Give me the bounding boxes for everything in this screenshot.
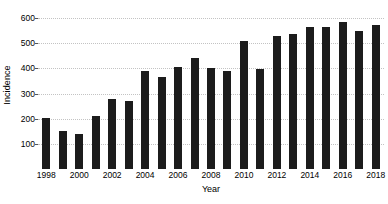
bar xyxy=(158,77,166,169)
y-axis-title: Incidence xyxy=(0,0,14,170)
bar xyxy=(289,34,297,169)
y-axis-tick-mark xyxy=(35,119,38,120)
bar xyxy=(59,131,67,169)
y-axis-tick-mark xyxy=(35,144,38,145)
x-axis-tick-labels: 1998200020022004200620082010201220142016… xyxy=(38,170,384,184)
bar xyxy=(256,69,264,169)
bar xyxy=(42,118,50,169)
bar xyxy=(223,71,231,169)
x-axis-tick-label: 2008 xyxy=(202,170,221,180)
incidence-by-year-bar-chart: Incidence 100200300400500600 19982000200… xyxy=(0,0,388,204)
bar xyxy=(240,41,248,169)
y-axis-tick-mark xyxy=(35,18,38,19)
gridline xyxy=(38,18,384,19)
bar xyxy=(174,67,182,169)
x-axis-tick-label: 2010 xyxy=(234,170,253,180)
x-axis-tick-label: 2012 xyxy=(267,170,286,180)
bar xyxy=(355,31,363,169)
bar xyxy=(306,27,314,169)
plot-area xyxy=(38,8,384,169)
y-axis-tick-label: 500 xyxy=(21,38,35,48)
x-axis-tick-label: 2000 xyxy=(70,170,89,180)
bar xyxy=(273,36,281,169)
bar xyxy=(322,27,330,169)
gridline xyxy=(38,43,384,44)
y-axis-tick-mark xyxy=(35,68,38,69)
bar xyxy=(191,58,199,169)
x-axis-tick-label: 2006 xyxy=(169,170,188,180)
x-axis-tick-label: 2004 xyxy=(136,170,155,180)
bar xyxy=(125,101,133,169)
bar xyxy=(141,71,149,169)
bar xyxy=(372,25,380,169)
bar xyxy=(75,134,83,169)
y-axis-tick-label: 400 xyxy=(21,63,35,73)
y-axis-tick-label: 300 xyxy=(21,89,35,99)
y-axis-tick-label: 200 xyxy=(21,114,35,124)
y-axis-tick-labels: 100200300400500600 xyxy=(14,0,38,180)
bar xyxy=(108,99,116,169)
y-axis-tick-label: 100 xyxy=(21,139,35,149)
x-axis-tick-label: 2014 xyxy=(300,170,319,180)
x-axis-tick-label: 2016 xyxy=(333,170,352,180)
y-axis-title-label: Incidence xyxy=(2,65,12,104)
bar xyxy=(339,22,347,169)
y-axis-tick-mark xyxy=(35,94,38,95)
bar xyxy=(207,68,215,169)
x-axis-tick-label: 2018 xyxy=(366,170,385,180)
bar xyxy=(92,116,100,169)
x-axis-tick-label: 1998 xyxy=(37,170,56,180)
y-axis-tick-mark xyxy=(35,43,38,44)
x-axis-title-label: Year xyxy=(38,184,384,194)
y-axis-tick-label: 600 xyxy=(21,13,35,23)
x-axis-tick-label: 2002 xyxy=(103,170,122,180)
